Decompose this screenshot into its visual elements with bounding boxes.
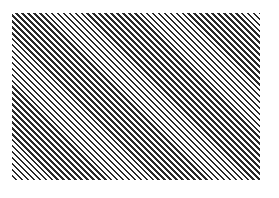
diagonal-stripe-pattern bbox=[12, 13, 260, 180]
